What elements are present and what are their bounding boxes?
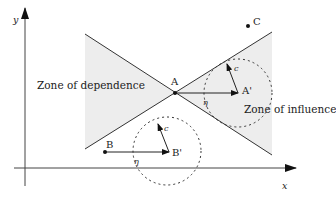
label-A: A — [170, 76, 179, 87]
label-B-prime: B' — [172, 147, 182, 158]
label-eta-B: η — [134, 157, 139, 166]
point-B — [103, 150, 107, 154]
label-B: B — [106, 139, 113, 150]
x-axis-label: x — [282, 180, 288, 191]
zone-of-influence-label: Zone of influence — [244, 103, 336, 115]
label-C: C — [253, 16, 261, 27]
label-A-prime: A' — [241, 85, 252, 96]
label-eta-A: η — [203, 98, 208, 107]
diagram-canvas: y x Zone of dependence Zone of influence… — [0, 0, 336, 198]
y-axis-label: y — [12, 14, 19, 25]
point-A — [173, 91, 177, 95]
domain-of-dependence-diagram: y x Zone of dependence Zone of influence… — [0, 0, 336, 198]
label-c-B-prime: c — [164, 124, 169, 133]
zone-of-dependence-label: Zone of dependence — [37, 79, 145, 91]
point-C — [246, 24, 250, 28]
label-c-A-prime: c — [234, 64, 239, 73]
